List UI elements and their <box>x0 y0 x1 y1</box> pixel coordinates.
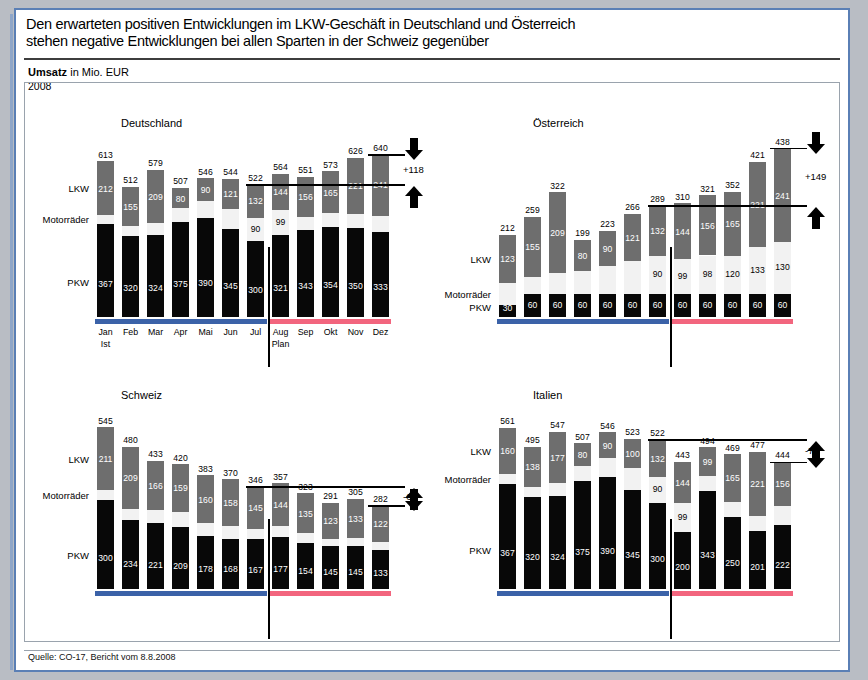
value-label-pkw: 60 <box>599 301 617 310</box>
period-bar-ist <box>95 591 267 596</box>
total-label: 512 <box>122 176 140 185</box>
segment-motorraeder <box>549 273 567 294</box>
segment-motorraeder: 130 <box>774 242 792 293</box>
segment-pkw: 343 <box>297 230 315 317</box>
segment-pkw: 145 <box>347 546 365 589</box>
segment-motorraeder <box>247 529 265 539</box>
value-label-lkw: 133 <box>347 515 365 524</box>
value-label-motorraeder: 133 <box>749 266 767 275</box>
value-label-lkw: 123 <box>322 517 340 526</box>
segment-lkw: 160 <box>197 475 215 522</box>
value-label-pkw: 60 <box>699 301 717 310</box>
segment-pkw: 60 <box>699 294 717 317</box>
value-label-pkw: 60 <box>649 301 667 310</box>
segment-motorraeder <box>97 490 115 500</box>
segment-pkw: 60 <box>624 294 642 317</box>
value-label-pkw: 60 <box>674 301 692 310</box>
segment-motorraeder <box>122 509 140 520</box>
value-label-motorraeder: 98 <box>699 270 717 279</box>
segment-pkw: 60 <box>774 294 792 317</box>
value-label-pkw: 300 <box>247 286 265 295</box>
value-label-pkw: 60 <box>774 301 792 310</box>
total-label: 522 <box>649 429 667 438</box>
axis-label-motorraeder: Motorräder <box>27 490 89 501</box>
segment-lkw: 158 <box>222 479 240 526</box>
delta-connector-bottom <box>648 205 808 206</box>
total-label: 522 <box>247 174 265 183</box>
chart-title: Schweiz <box>121 389 162 401</box>
month-label: Nov <box>343 327 368 337</box>
value-label-lkw: 177 <box>549 454 567 463</box>
total-label: 357 <box>272 473 290 482</box>
segment-lkw: 123 <box>499 235 517 283</box>
segment-motorraeder <box>499 283 517 306</box>
segment-pkw: 177 <box>272 537 290 590</box>
value-label-pkw: 320 <box>524 553 542 562</box>
subtitle-bold: Umsatz <box>28 66 67 78</box>
stacked-bar: 60133221421 <box>749 162 767 317</box>
value-label-pkw: 178 <box>197 565 215 574</box>
segment-lkw: 209 <box>147 170 165 223</box>
segment-motorraeder <box>774 506 792 525</box>
segment-pkw: 350 <box>347 228 365 317</box>
total-label: 291 <box>322 492 340 501</box>
stacked-bar: 209159420 <box>172 464 190 589</box>
value-label-lkw: 138 <box>524 463 542 472</box>
total-label: 420 <box>172 454 190 463</box>
value-label-lkw: 211 <box>97 455 115 464</box>
total-label: 305 <box>347 488 365 497</box>
segment-motorraeder <box>524 487 542 498</box>
total-label: 321 <box>699 185 717 194</box>
value-label-motorraeder: 130 <box>774 263 792 272</box>
segment-lkw: 90 <box>599 432 617 458</box>
stacked-bar: 320138495 <box>524 447 542 589</box>
month-label: Mai <box>193 327 218 337</box>
total-label: 573 <box>322 161 340 170</box>
value-label-lkw: 121 <box>624 234 642 243</box>
segment-lkw: 135 <box>297 493 315 533</box>
delta-connector-bottom <box>246 184 406 185</box>
segment-lkw: 90 <box>599 231 617 266</box>
stacked-bar: 32199144564 <box>272 174 290 317</box>
total-label: 551 <box>297 166 315 175</box>
total-label: 561 <box>499 417 517 426</box>
total-label: 443 <box>674 451 692 460</box>
segment-motorraeder: 99 <box>674 259 692 294</box>
month-label: Okt <box>318 327 343 337</box>
total-label: 613 <box>97 151 115 160</box>
value-label-pkw: 367 <box>499 549 517 558</box>
segment-lkw: 212 <box>97 161 115 215</box>
delta-connector-top <box>770 148 807 149</box>
total-label: 438 <box>774 138 792 147</box>
plot-area: 3002115452342094802211664332091594201781… <box>93 411 393 589</box>
header-line-1: Den erwarteten positiven Entwicklungen i… <box>26 16 838 33</box>
value-label-pkw: 343 <box>297 282 315 291</box>
segment-lkw: 133 <box>347 499 365 538</box>
segment-pkw: 60 <box>549 294 567 317</box>
total-label: 352 <box>724 181 742 190</box>
month-label: Sep <box>293 327 318 337</box>
value-label-lkw: 144 <box>674 228 692 237</box>
segment-pkw: 321 <box>272 235 290 317</box>
segment-pkw: 390 <box>599 477 617 589</box>
segment-motorraeder <box>222 526 240 539</box>
source-bar: Quelle: CO-17, Bericht vom 8.8.2008 <box>24 650 840 667</box>
segment-motorraeder <box>347 538 365 546</box>
stacked-bar: 6099144310 <box>674 203 692 317</box>
slide-header: Den erwarteten positiven Entwicklungen i… <box>26 16 838 50</box>
segment-pkw: 300 <box>247 241 265 317</box>
segment-pkw: 60 <box>574 294 592 317</box>
value-label-pkw: 221 <box>147 561 165 570</box>
total-label: 199 <box>574 229 592 238</box>
value-label-lkw: 132 <box>649 455 667 464</box>
value-label-lkw: 159 <box>172 484 190 493</box>
value-label-lkw: 122 <box>372 520 390 529</box>
total-label: 212 <box>499 224 517 233</box>
segment-motorraeder <box>372 542 390 550</box>
stacked-bar: 133122282 <box>372 505 390 589</box>
segment-pkw: 343 <box>699 491 717 589</box>
value-label-pkw: 367 <box>97 280 115 289</box>
value-label-lkw: 132 <box>649 227 667 236</box>
segment-pkw: 60 <box>649 294 667 317</box>
segment-lkw: 144 <box>272 174 290 211</box>
